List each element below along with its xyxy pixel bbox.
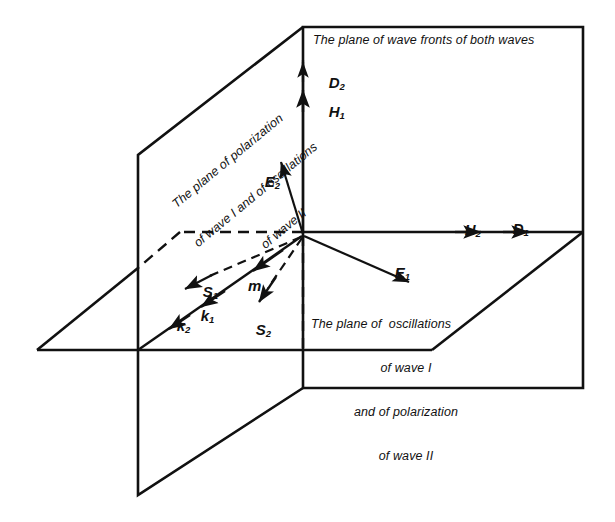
label-D1-subscript: 1 (524, 227, 529, 238)
caption-oscillation-plane-line3: and of polarization (311, 405, 501, 420)
label-D1: D1 (496, 202, 529, 256)
label-E1-symbol: E (395, 264, 405, 281)
label-D1-symbol: D (513, 220, 524, 237)
label-k2: k2 (160, 299, 190, 353)
label-H2-subscript: 2 (476, 228, 481, 239)
caption-oscillation-plane: The plane of oscillations of wave I and … (311, 287, 501, 494)
label-k1-subscript: 1 (209, 314, 214, 325)
label-k2-subscript: 2 (185, 324, 190, 335)
label-H2-symbol: H (465, 221, 476, 238)
physics-diagram: The plane of wave fronts of both waves T… (0, 0, 615, 522)
label-S2-symbol: S (256, 321, 266, 338)
label-k2-symbol: k (177, 317, 185, 334)
caption-oscillation-plane-line4: of wave II (311, 449, 501, 464)
label-H1-symbol: H (329, 103, 340, 120)
label-E1: E1 (378, 246, 410, 300)
label-H2: H2 (448, 203, 481, 257)
label-E2: E2 (248, 155, 280, 209)
diagram-canvas (0, 0, 615, 522)
caption-wave-front-plane: The plane of wave fronts of both waves (313, 33, 534, 48)
label-H1: H1 (312, 85, 345, 139)
label-S2-subscript: 2 (266, 328, 271, 339)
label-S2: S2 (239, 303, 271, 357)
label-k1-symbol: k (201, 307, 209, 324)
label-E1-subscript: 1 (405, 271, 410, 282)
label-H1-subscript: 1 (340, 110, 345, 121)
label-E2-symbol: E (265, 173, 275, 190)
label-m: m (248, 277, 261, 295)
caption-oscillation-plane-line2: of wave I (311, 361, 501, 376)
label-E2-subscript: 2 (275, 180, 280, 191)
caption-oscillation-plane-line1: The plane of oscillations (311, 317, 501, 332)
